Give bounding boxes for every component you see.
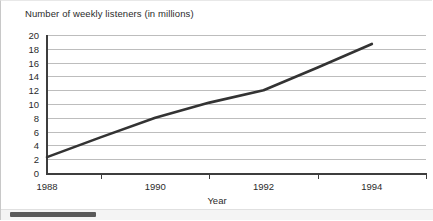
horizontal-scrollbar-track[interactable] [1, 209, 433, 220]
horizontal-scrollbar-thumb[interactable] [10, 212, 96, 217]
data-series-layer [1, 1, 433, 221]
line-series-weekly-listeners [47, 44, 372, 157]
